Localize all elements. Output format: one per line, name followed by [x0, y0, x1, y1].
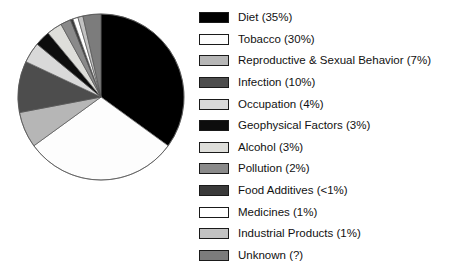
legend-swatch-industrial-products — [199, 228, 229, 239]
legend-label-infection: Infection (10%) — [238, 76, 315, 89]
pie-chart-figure: Diet (35%) Tobacco (30%) Reproductive & … — [0, 0, 457, 266]
legend-swatch-geophysical-factors — [199, 120, 229, 131]
legend-item-food-additives[interactable]: Food Additives (<1%) — [199, 180, 455, 202]
legend-label-industrial-products: Industrial Products (1%) — [238, 227, 361, 240]
legend-swatch-reproductive-sexual-behavior — [199, 55, 229, 66]
legend-swatch-medicines — [199, 207, 229, 218]
legend-label-unknown: Unknown (?) — [238, 249, 303, 262]
legend-item-alcohol[interactable]: Alcohol (3%) — [199, 137, 455, 159]
legend-item-pollution[interactable]: Pollution (2%) — [199, 158, 455, 180]
legend-label-diet: Diet (35%) — [238, 11, 292, 24]
legend-item-infection[interactable]: Infection (10%) — [199, 72, 455, 94]
legend-swatch-pollution — [199, 163, 229, 174]
legend-swatch-alcohol — [199, 142, 229, 153]
legend-item-occupation[interactable]: Occupation (4%) — [199, 93, 455, 115]
legend-swatch-infection — [199, 77, 229, 88]
legend-item-tobacco[interactable]: Tobacco (30%) — [199, 29, 455, 51]
legend-swatch-food-additives — [199, 185, 229, 196]
legend-swatch-diet — [199, 12, 229, 23]
legend-label-tobacco: Tobacco (30%) — [238, 33, 315, 46]
legend-label-occupation: Occupation (4%) — [238, 98, 324, 111]
legend-item-diet[interactable]: Diet (35%) — [199, 7, 455, 29]
pie-chart-plot-area — [0, 0, 195, 266]
legend-item-geophysical-factors[interactable]: Geophysical Factors (3%) — [199, 115, 455, 137]
legend-item-unknown[interactable]: Unknown (?) — [199, 245, 455, 266]
legend-label-pollution: Pollution (2%) — [238, 162, 310, 175]
legend-label-alcohol: Alcohol (3%) — [238, 141, 303, 154]
legend-label-food-additives: Food Additives (<1%) — [238, 184, 348, 197]
legend-swatch-occupation — [199, 99, 229, 110]
legend-swatch-unknown — [199, 250, 229, 261]
legend-item-reproductive-sexual-behavior[interactable]: Reproductive & Sexual Behavior (7%) — [199, 50, 455, 72]
legend-label-reproductive-sexual-behavior: Reproductive & Sexual Behavior (7%) — [238, 54, 431, 67]
legend-label-geophysical-factors: Geophysical Factors (3%) — [238, 119, 370, 132]
legend-swatch-tobacco — [199, 34, 229, 45]
legend-item-medicines[interactable]: Medicines (1%) — [199, 201, 455, 223]
legend-item-industrial-products[interactable]: Industrial Products (1%) — [199, 223, 455, 245]
legend-label-medicines: Medicines (1%) — [238, 206, 317, 219]
pie-slice-group — [18, 14, 184, 180]
pie-chart-svg — [0, 0, 195, 266]
chart-legend: Diet (35%) Tobacco (30%) Reproductive & … — [199, 7, 455, 266]
